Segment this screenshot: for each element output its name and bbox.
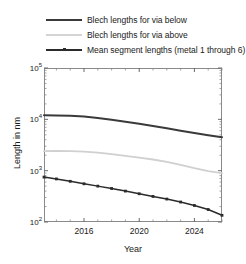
series-line-1	[44, 151, 222, 173]
series-marker-2	[96, 185, 99, 188]
series-marker-2	[83, 182, 86, 185]
series-line-2	[44, 177, 222, 215]
series-marker-2	[124, 190, 127, 193]
series-marker-2	[138, 192, 141, 195]
series-marker-2	[179, 201, 182, 204]
series-marker-2	[152, 195, 155, 198]
series-marker-2	[193, 204, 196, 207]
series-marker-2	[221, 214, 224, 217]
series-line-0	[44, 115, 222, 137]
plot-area	[0, 0, 246, 264]
plot-frame	[45, 69, 222, 222]
series-marker-2	[165, 198, 168, 201]
series-marker-2	[55, 178, 58, 181]
series-marker-2	[110, 187, 113, 190]
series-marker-2	[207, 208, 210, 211]
chart-figure: Blech lengths for via below Blech length…	[0, 0, 246, 264]
series-marker-2	[43, 176, 46, 179]
series-marker-2	[69, 180, 72, 183]
